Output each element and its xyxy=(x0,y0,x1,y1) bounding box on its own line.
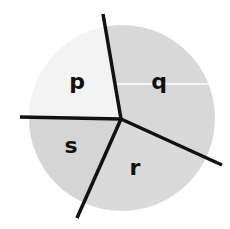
circle-diagram: p q r s xyxy=(0,0,230,229)
label-p: p xyxy=(69,69,85,94)
label-s: s xyxy=(64,133,77,158)
label-r: r xyxy=(130,155,141,180)
label-q: q xyxy=(151,69,167,94)
